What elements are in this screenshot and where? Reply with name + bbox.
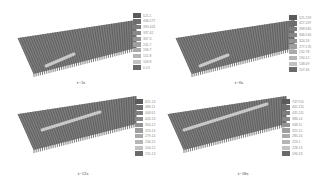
legend-entry: 148.09 [289, 61, 319, 66]
legend-swatch [133, 37, 141, 41]
legend-entry: 337.42 [133, 30, 163, 35]
legend-entry: 324.18 [289, 38, 319, 43]
legend-swatch [133, 42, 141, 46]
legend-swatch [133, 31, 141, 35]
legend-label: 109.8 [143, 60, 152, 64]
legend-entry: 285.16 [282, 134, 312, 139]
legend-swatch [282, 146, 290, 150]
legend-label: 279.14 [145, 134, 155, 138]
panel-t6: 521.219457.237398.945366.516324.18277.17… [162, 0, 324, 94]
legend-entry: 483.11 [135, 105, 165, 110]
legend-swatch [282, 134, 290, 138]
legend-label: 234.12 [145, 140, 155, 144]
legend-label: 196.23 [292, 152, 302, 156]
legend-swatch [289, 33, 297, 37]
legend-entry: 307.3 [133, 36, 163, 41]
legend-entry: 621.13 [135, 99, 165, 104]
legend-entry: 390.423 [133, 25, 163, 30]
legend-swatch [282, 128, 290, 132]
legend: 621.13483.11444.61420.13354.12313.13279.… [135, 99, 165, 157]
legend-swatch [135, 140, 143, 144]
legend-label: 337.42 [143, 31, 153, 35]
legend-swatch [282, 123, 290, 127]
legend-label: 621.13 [145, 100, 155, 104]
legend-swatch [289, 67, 297, 71]
legend-label: 386.14 [292, 117, 302, 121]
caption: t=6s [224, 80, 254, 85]
legend-label: 354.12 [145, 123, 155, 127]
legend-swatch [282, 140, 290, 144]
legend-label: 348.11 [292, 123, 302, 127]
legend-swatch [282, 105, 290, 109]
legend-entry: 420.13 [135, 116, 165, 121]
legend-swatch [135, 134, 143, 138]
legend-entry: 0.13 [133, 65, 163, 70]
legend-label: 0.13 [143, 66, 150, 70]
finned-plate-plot [12, 10, 142, 88]
legend-swatch [289, 44, 297, 48]
legend-label: 747.911 [292, 100, 304, 104]
legend-entry: 521.1 [133, 13, 163, 18]
legend-swatch [282, 151, 290, 155]
legend-entry: 253.1 [282, 139, 312, 144]
caption: t=3s [66, 80, 96, 85]
legend-swatch [135, 111, 143, 115]
legend-label: 324.18 [299, 39, 309, 43]
legend-label: 228.13 [292, 146, 302, 150]
panel-t18: 747.911461.211431.111386.14348.11325.152… [162, 94, 324, 188]
legend-swatch [133, 13, 141, 17]
panel-t3: 521.1436.577390.423337.42307.3241.7196.7… [0, 0, 162, 94]
legend-entry: 461.211 [282, 105, 312, 110]
legend-swatch [289, 62, 297, 66]
legend-entry: 436.577 [133, 19, 163, 24]
legend-entry: 366.516 [289, 32, 319, 37]
legend-entry: 279.14 [135, 134, 165, 139]
legend-swatch [289, 39, 297, 43]
legend-label: 366.516 [299, 33, 311, 37]
legend-swatch [133, 65, 141, 69]
legend-swatch [289, 21, 297, 25]
finned-plate-plot [12, 94, 142, 172]
legend-label: 307.3 [143, 37, 152, 41]
legend-label: 398.945 [299, 27, 311, 31]
legend-label: 151.13 [145, 152, 155, 156]
legend-label: 457.237 [299, 21, 311, 25]
legend-label: 431.111 [292, 111, 304, 115]
legend-swatch [135, 105, 143, 109]
legend-entry: 196.7 [133, 48, 163, 53]
legend-swatch [135, 146, 143, 150]
legend-entry: 431.111 [282, 111, 312, 116]
legend-label: 277.176 [299, 45, 311, 49]
legend-swatch [289, 56, 297, 60]
legend-entry: 228.13 [282, 145, 312, 150]
legend-entry: 151.13 [135, 151, 165, 156]
legend-label: 390.423 [143, 25, 155, 29]
legend-label: 232.78 [299, 50, 309, 54]
legend-swatch [133, 25, 141, 29]
legend-label: 190.12 [299, 56, 309, 60]
legend-swatch [133, 60, 141, 64]
legend-entry: 325.15 [282, 128, 312, 133]
legend-entry: 354.12 [135, 122, 165, 127]
finned-plate-plot [170, 10, 300, 88]
legend-label: 325.15 [292, 129, 302, 133]
legend-label: 196.7 [143, 48, 152, 52]
legend-label: 521.1 [143, 14, 152, 18]
legend-label: 420.13 [145, 117, 155, 121]
legend-entry: 277.176 [289, 44, 319, 49]
legend-swatch [282, 111, 290, 115]
legend-label: 521.219 [299, 16, 311, 20]
legend-entry: 151.8 [133, 53, 163, 58]
legend-label: 241.7 [143, 43, 152, 47]
caption: t=12s [68, 171, 98, 176]
legend: 521.1436.577390.423337.42307.3241.7196.7… [133, 13, 163, 71]
legend-swatch [135, 128, 143, 132]
caption: t=18s [228, 171, 258, 176]
legend-label: 204.12 [145, 146, 155, 150]
legend-swatch [133, 19, 141, 23]
legend-swatch [135, 117, 143, 121]
legend: 747.911461.211431.111386.14348.11325.152… [282, 99, 312, 157]
legend-label: 483.11 [145, 105, 155, 109]
legend-label: 148.09 [299, 62, 309, 66]
legend-entry: 444.61 [135, 111, 165, 116]
